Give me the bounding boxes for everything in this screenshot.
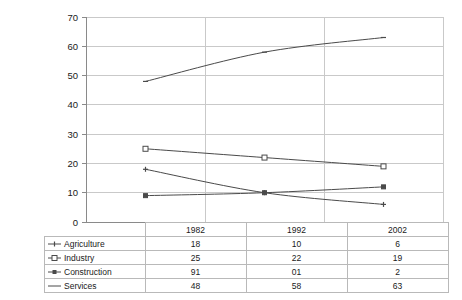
table-corner-cell [45,223,146,237]
data-point-industry-2002 [381,164,386,169]
legend-marker-construction-icon [48,268,61,276]
table-cell-industry-1982: 25 [145,251,246,265]
table-cell-services-1992: 58 [246,279,347,293]
data-point-construction-1992 [263,191,267,195]
table-row: Construction91012 [45,265,449,279]
series-agriculture [143,167,386,207]
y-axis-tick-label-30: 30 [67,129,78,140]
table-cell-agriculture-1992: 10 [246,237,347,251]
legend-label-construction: Construction [64,266,112,278]
table-cell-services-2002: 63 [347,279,448,293]
y-axis-tick-label-40: 40 [67,99,78,110]
series-industry [143,146,386,169]
table-column-header-1992: 1992 [246,223,347,237]
series-line-agriculture [146,169,384,204]
table-cell-industry-1992: 22 [246,251,347,265]
y-axis-tick-label-20: 20 [67,158,78,169]
legend-marker-agriculture-icon [48,240,61,248]
table-row: Industry252219 [45,251,449,265]
legend-entry-construction: Construction [45,265,146,279]
table-cell-construction-1982: 91 [145,265,246,279]
data-point-agriculture-2002 [381,202,386,207]
legend-marker-services-icon [48,282,61,290]
table-cell-construction-2002: 2 [347,265,448,279]
table-cell-services-1982: 48 [145,279,246,293]
series-construction [144,185,386,198]
y-axis-tick-label-60: 60 [67,41,78,52]
legend-label-industry: Industry [64,252,94,264]
data-point-industry-1992 [262,155,267,160]
table-column-header-2002: 2002 [347,223,448,237]
y-axis-tick-label-50: 50 [67,70,78,81]
table-header-row: 1982 1992 2002 [45,223,449,237]
legend-entry-services: Services [45,279,146,293]
table-cell-construction-1992: 01 [246,265,347,279]
legend-label-services: Services [64,280,97,292]
legend-entry-industry: Industry [45,251,146,265]
chart-data-table: 1982 1992 2002 Agriculture18106Industry2… [44,222,449,293]
data-point-construction-2002 [382,185,386,189]
legend-label-agriculture: Agriculture [64,238,105,250]
line-chart-with-data-table: 010203040506070 1982 1992 2002 Agricultu… [0,0,462,300]
data-point-industry-1982 [143,146,148,151]
y-axis-tick-label-70: 70 [67,12,78,23]
table-cell-agriculture-2002: 6 [347,237,448,251]
series-services [143,38,386,82]
data-point-construction-1982 [144,194,148,198]
series-line-services [146,38,384,82]
data-point-agriculture-1982 [143,167,148,172]
y-axis-tick-label-10: 10 [67,187,78,198]
legend-entry-agriculture: Agriculture [45,237,146,251]
table-row: Services485863 [45,279,449,293]
table-row: Agriculture18106 [45,237,449,251]
table-cell-industry-2002: 19 [347,251,448,265]
legend-marker-industry-icon [48,254,61,262]
table-column-header-1982: 1982 [145,223,246,237]
table-cell-agriculture-1982: 18 [145,237,246,251]
